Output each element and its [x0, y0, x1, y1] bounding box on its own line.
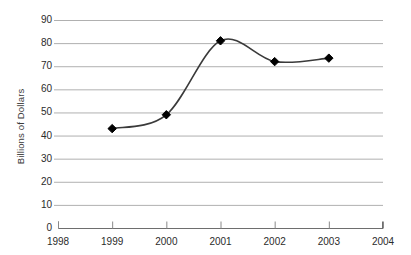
line-chart: Billions of Dollars 01020304050607080901… — [0, 0, 411, 255]
y-tick-label: 90 — [26, 15, 52, 25]
plot-area — [0, 0, 411, 255]
data-point-marker — [270, 57, 278, 65]
y-tick-label: 70 — [26, 61, 52, 71]
x-tick-label: 2002 — [252, 237, 298, 247]
y-tick-label: 20 — [26, 177, 52, 187]
y-tick-label: 0 — [26, 223, 52, 233]
y-tick-label: 80 — [26, 38, 52, 48]
data-point-marker — [108, 124, 116, 132]
x-tick-label: 2001 — [198, 237, 244, 247]
x-tick-label: 2003 — [306, 237, 352, 247]
y-tick-label: 30 — [26, 154, 52, 164]
y-tick-label: 50 — [26, 107, 52, 117]
x-tick-label: 2004 — [360, 237, 406, 247]
x-tick-label: 1998 — [35, 237, 81, 247]
y-tick-label: 40 — [26, 131, 52, 141]
x-tick-label: 2000 — [143, 237, 189, 247]
data-point-marker — [325, 54, 333, 62]
data-line — [112, 39, 329, 129]
y-tick-label: 60 — [26, 84, 52, 94]
y-tick-label: 10 — [26, 200, 52, 210]
x-tick-label: 1999 — [89, 237, 135, 247]
